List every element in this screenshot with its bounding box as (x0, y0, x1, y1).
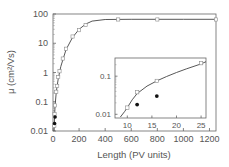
main-x-ticks: 020040060080010001200 (50, 128, 219, 144)
open-square-marker (156, 18, 159, 21)
open-square-marker (126, 106, 129, 109)
x-tick-label: 25 (197, 121, 206, 130)
main-y-ticks: 0.010.1110100 (30, 9, 56, 136)
x-tick-label: 200 (72, 134, 87, 144)
filled-circle-marker (53, 122, 57, 126)
open-square-marker (55, 90, 58, 93)
open-square-marker (58, 70, 61, 73)
open-square-marker (199, 61, 202, 64)
open-square-marker (77, 29, 80, 32)
filled-circle-marker (53, 115, 57, 119)
x-tick-label: 600 (124, 134, 139, 144)
filled-circle-marker (155, 94, 159, 98)
x-tick-label: 400 (98, 134, 113, 144)
x-tick-label: 20 (172, 121, 181, 130)
x-axis-label: Length (PV units) (97, 149, 170, 160)
x-tick-label: 15 (147, 121, 156, 130)
chart: 0.010.1110100 020040060080010001200 Leng… (0, 0, 229, 167)
y-tick-label: 0.01 (30, 126, 48, 136)
open-square-marker (214, 18, 217, 21)
y-axis-label: μ (cm²/Vs) (5, 50, 16, 94)
y-tick-label: 100 (33, 9, 48, 19)
open-square-marker (135, 91, 138, 94)
x-tick-label: 1200 (199, 134, 219, 144)
y-tick-label: 0.1 (100, 72, 112, 81)
open-square-marker (56, 84, 59, 87)
y-tick-label: 0.01 (95, 110, 111, 119)
x-tick-label: 800 (150, 134, 165, 144)
y-tick-label: 1 (43, 68, 48, 78)
filled-circle-marker (135, 103, 139, 107)
y-tick-label: 0.1 (35, 97, 48, 107)
open-square-marker (71, 35, 74, 38)
x-tick-label: 10 (123, 121, 132, 130)
inset-y-ticks: 0.010.1 (95, 65, 117, 120)
open-square-marker (57, 75, 60, 78)
x-tick-label: 1000 (173, 134, 193, 144)
open-square-marker (84, 23, 87, 26)
open-square-marker (53, 112, 56, 115)
open-square-marker (117, 18, 120, 21)
inset-plot: 0.010.1 10152025 (95, 58, 206, 130)
open-square-marker (61, 57, 64, 60)
x-tick-label: 0 (50, 134, 55, 144)
y-tick-label: 10 (38, 38, 48, 48)
open-square-marker (64, 47, 67, 50)
open-square-marker (155, 79, 158, 82)
open-square-marker (53, 104, 56, 107)
